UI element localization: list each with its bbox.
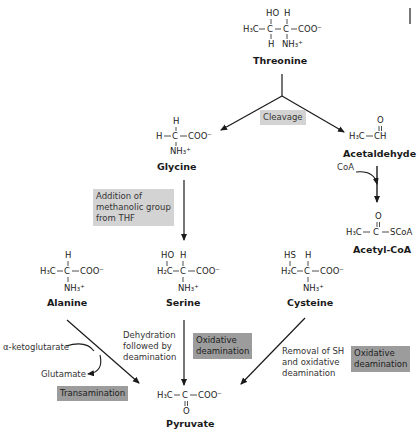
acetyl-coa-main-1: H₃C bbox=[346, 227, 362, 237]
removal-line-2: and oxidative bbox=[282, 357, 344, 368]
cysteine-main-1: H₂C bbox=[281, 266, 297, 276]
dehydration-line-3: deamination bbox=[123, 352, 176, 363]
glycine-label: Glycine bbox=[157, 161, 196, 172]
dehydration-label: Dehydration followed by deamination bbox=[123, 330, 176, 363]
transamination-label: Transamination bbox=[57, 386, 128, 401]
addition-line-2: methanolic group bbox=[96, 202, 171, 213]
acetaldehyde-main-1: H₃C bbox=[349, 131, 365, 141]
serine-bottom: NH₃⁺ bbox=[178, 283, 199, 293]
glutamate-output bbox=[88, 355, 101, 374]
coa-label: CoA bbox=[337, 162, 354, 173]
alanine-main-1: H₃C bbox=[40, 266, 56, 276]
alanine-top: H bbox=[65, 250, 71, 260]
page-edge-mark bbox=[409, 8, 411, 24]
alanine-structure: H H₃C C COO⁻ NH₃⁺ bbox=[40, 250, 104, 293]
coa-input-arrow bbox=[356, 172, 377, 184]
oxidative-cysteine-line-2: deamination bbox=[354, 359, 407, 370]
addition-line-1: Addition of bbox=[96, 191, 171, 202]
alanine-main-3: COO⁻ bbox=[80, 266, 104, 276]
pyruvate-bottom: O bbox=[183, 406, 190, 416]
acetyl-coa-label: Acetyl-CoA bbox=[353, 244, 411, 255]
pyruvate-main-2: C bbox=[182, 390, 188, 400]
pyruvate-label: Pyruvate bbox=[166, 418, 214, 429]
cleavage-label: Cleavage bbox=[260, 110, 306, 125]
acetaldehyde-label: Acetaldehyde bbox=[343, 148, 416, 159]
glycine-main-2: C bbox=[172, 131, 178, 141]
removal-line-1: Removal of SH bbox=[282, 346, 344, 357]
acetyl-coa-main-2: C bbox=[373, 227, 379, 237]
glycine-main-3: COO⁻ bbox=[188, 131, 212, 141]
oxidative-deamination-serine-label: Oxidative deamination bbox=[193, 333, 252, 359]
cysteine-top-1: HS bbox=[284, 250, 296, 260]
threonine-main-4: COO⁻ bbox=[298, 24, 322, 34]
threonine-top-2: H bbox=[284, 8, 290, 18]
addition-label: Addition of methanolic group from THF bbox=[93, 189, 174, 226]
threonine-main-1: H₃C bbox=[243, 24, 259, 34]
threonine-main-3: C bbox=[283, 24, 289, 34]
serine-label: Serine bbox=[166, 297, 200, 308]
serine-top-1: HO bbox=[161, 250, 174, 260]
removal-sh-label: Removal of SH and oxidative deamination bbox=[282, 346, 344, 379]
removal-line-3: deamination bbox=[282, 368, 344, 379]
serine-structure: HO H H₂C C COO⁻ NH₃⁺ bbox=[157, 250, 220, 293]
cysteine-top-2: H bbox=[305, 250, 311, 260]
cysteine-main-3: COO⁻ bbox=[320, 266, 344, 276]
dehydration-line-1: Dehydration bbox=[123, 330, 176, 341]
cysteine-structure: HS H H₂C C COO⁻ NH₃⁺ bbox=[281, 250, 344, 293]
serine-main-1: H₂C bbox=[157, 266, 173, 276]
threonine-main-2: C bbox=[267, 24, 273, 34]
acetyl-coa-top: O bbox=[375, 211, 382, 221]
oxidative-cysteine-line-1: Oxidative bbox=[354, 348, 407, 359]
oxidative-serine-line-1: Oxidative bbox=[196, 335, 249, 346]
serine-main-3: COO⁻ bbox=[196, 266, 220, 276]
cysteine-main-2: C bbox=[304, 266, 310, 276]
acetaldehyde-top: O bbox=[377, 115, 384, 125]
ketoglutarate-label: α-ketoglutarate bbox=[3, 342, 69, 353]
acetaldehyde-structure: O H₃C CH bbox=[349, 115, 386, 141]
dehydration-line-2: followed by bbox=[123, 341, 176, 352]
oxidative-deamination-cysteine-label: Oxidative deamination bbox=[351, 346, 410, 372]
acetyl-coa-structure: O H₃C C SCoA bbox=[346, 211, 413, 237]
threonine-structure: HO H H₃C C C COO⁻ H NH₃⁺ bbox=[243, 8, 322, 49]
threonine-top-1: HO bbox=[266, 8, 279, 18]
pyruvate-main-1: H₃C bbox=[157, 390, 173, 400]
threonine-bottom-1: H bbox=[268, 39, 274, 49]
alanine-label: Alanine bbox=[47, 297, 87, 308]
glutamate-label: Glutamate bbox=[41, 369, 86, 380]
threonine-label: Threonine bbox=[253, 55, 307, 66]
pyruvate-main-3: COO⁻ bbox=[198, 390, 222, 400]
addition-line-3: from THF bbox=[96, 213, 171, 224]
acetaldehyde-main-2: CH bbox=[374, 131, 386, 141]
acetyl-coa-main-3: SCoA bbox=[390, 227, 413, 237]
cysteine-label: Cysteine bbox=[287, 297, 333, 308]
glycine-top: H bbox=[173, 116, 179, 126]
pyruvate-structure: H₃C C COO⁻ O bbox=[157, 390, 222, 416]
ketoglutarate-input bbox=[66, 344, 94, 351]
alanine-bottom: NH₃⁺ bbox=[64, 283, 85, 293]
alanine-main-2: C bbox=[64, 266, 70, 276]
oxidative-serine-line-2: deamination bbox=[196, 346, 249, 357]
glycine-structure: H H C COO⁻ NH₃⁺ bbox=[156, 116, 212, 156]
serine-main-2: C bbox=[180, 266, 186, 276]
serine-top-2: H bbox=[180, 250, 186, 260]
glycine-bottom: NH₃⁺ bbox=[170, 146, 191, 156]
threonine-bottom-2: NH₃⁺ bbox=[282, 39, 303, 49]
cysteine-bottom: NH₃⁺ bbox=[303, 283, 324, 293]
glycine-main-1: H bbox=[156, 131, 162, 141]
